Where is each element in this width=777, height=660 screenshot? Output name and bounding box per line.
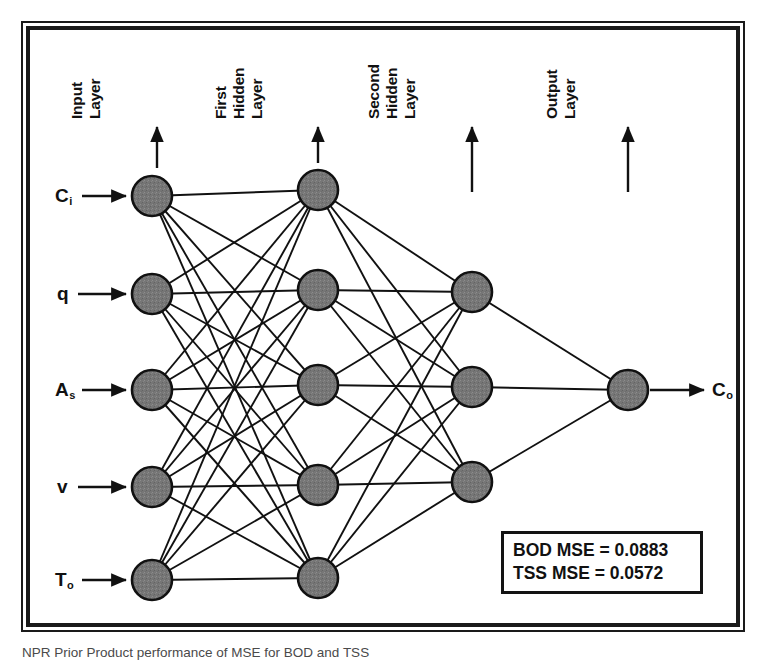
input-label-q: q	[57, 283, 69, 305]
tss-mse-text: TSS MSE = 0.0572	[513, 562, 691, 585]
bod-mse-text: BOD MSE = 0.0883	[513, 539, 691, 562]
input-label-to: To	[55, 569, 73, 591]
input-label-ci: Ci	[55, 185, 72, 207]
output-label-co: Co	[712, 379, 732, 401]
mse-annotation-box: BOD MSE = 0.0883 TSS MSE = 0.0572	[501, 531, 703, 594]
output-layer-label-line-2: Layer	[570, 79, 626, 119]
second-hidden-layer-label-line-3: Layer	[410, 79, 466, 119]
figure-caption: NPR Prior Product performance of MSE for…	[22, 645, 762, 660]
input-layer-label-line-2: Layer	[95, 79, 151, 119]
input-label-v: v	[57, 476, 68, 498]
input-label-as: As	[55, 379, 75, 401]
first-hidden-layer-label-line-3: Layer	[257, 79, 313, 119]
